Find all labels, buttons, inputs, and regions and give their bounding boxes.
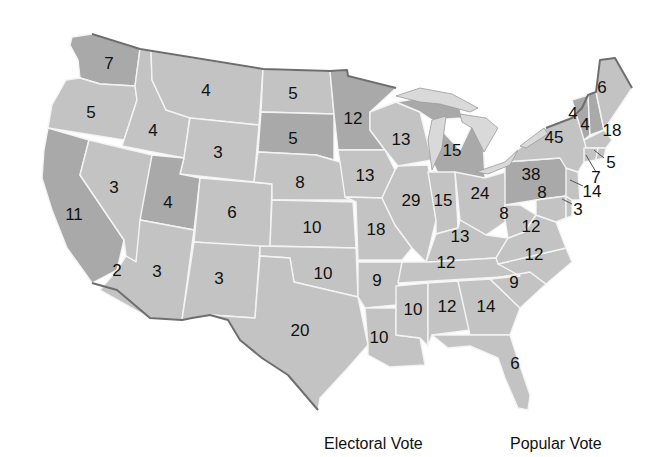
- label-pa: 38: [522, 165, 541, 184]
- label-mn: 12: [344, 109, 363, 128]
- label-de: 3: [573, 200, 582, 219]
- label-ok: 10: [314, 264, 333, 283]
- label-vt: 4: [568, 104, 577, 123]
- label-nm: 3: [214, 269, 223, 288]
- label-nj: 14: [583, 182, 602, 201]
- label-ks: 10: [303, 218, 322, 237]
- label-az-ca-split: 2: [112, 261, 121, 280]
- label-ca: 11: [65, 205, 83, 224]
- label-in: 15: [434, 191, 453, 210]
- label-il: 29: [402, 191, 421, 210]
- label-nh: 4: [580, 115, 589, 134]
- label-md: 8: [537, 183, 546, 202]
- us-electoral-map: 7 5 11 3 4 4 3 4 3 2 6 3 5 5 8 10 10 20 …: [0, 0, 662, 457]
- label-ny: 45: [545, 128, 564, 147]
- label-al: 12: [438, 297, 457, 316]
- label-ma: 18: [603, 121, 622, 140]
- label-mt: 4: [201, 81, 210, 100]
- label-wa: 7: [104, 54, 113, 73]
- label-tx: 20: [291, 321, 310, 340]
- label-ms: 10: [404, 300, 423, 319]
- label-tn: 12: [437, 253, 456, 272]
- label-or: 5: [86, 103, 95, 122]
- label-la: 10: [370, 328, 389, 347]
- label-oh: 24: [471, 184, 490, 203]
- label-az: 3: [152, 262, 161, 281]
- state-fl[interactable]: [432, 335, 530, 410]
- label-nv: 3: [109, 178, 118, 197]
- label-id: 4: [148, 121, 157, 140]
- label-sc: 9: [509, 273, 518, 292]
- label-nc: 12: [525, 245, 544, 264]
- label-co: 6: [227, 203, 236, 222]
- label-wv: 8: [499, 204, 508, 223]
- state-ri[interactable]: [596, 148, 606, 160]
- label-ri: 5: [606, 153, 615, 172]
- electoral-vote-label: Electoral Vote: [324, 435, 423, 453]
- label-wi: 13: [392, 130, 411, 149]
- label-ia: 13: [356, 166, 375, 185]
- label-wy: 3: [213, 143, 222, 162]
- label-mi: 15: [443, 141, 462, 160]
- label-me: 6: [597, 78, 606, 97]
- label-mo: 18: [367, 220, 386, 239]
- states-layer: [42, 34, 632, 410]
- label-ar: 9: [372, 271, 381, 290]
- popular-vote-label: Popular Vote: [510, 435, 602, 453]
- label-fl: 6: [510, 354, 519, 373]
- label-sd: 5: [288, 129, 297, 148]
- label-ky: 13: [451, 227, 470, 246]
- label-nd: 5: [288, 84, 297, 103]
- label-ga: 14: [477, 297, 496, 316]
- label-ne: 8: [295, 173, 304, 192]
- label-ut: 4: [163, 193, 172, 212]
- label-va: 12: [522, 217, 541, 236]
